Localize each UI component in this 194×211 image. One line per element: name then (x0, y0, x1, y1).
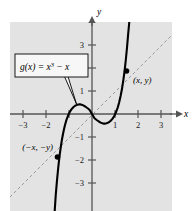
callout-equals: = (35, 62, 46, 72)
y-tick-label-3: 3 (80, 40, 84, 50)
cubic-function-graph: −3 −2 1 2 3 3 1 −1 −2 −3 x y (x, y) (−x,… (0, 0, 194, 211)
x-tick-label-3: 3 (159, 120, 163, 130)
y-tick-label-neg3: −3 (75, 178, 84, 188)
x-tick-label-2: 2 (136, 120, 140, 130)
point-marker-xy (124, 68, 130, 74)
x-tick-label-neg3: −3 (18, 120, 27, 130)
left-margin-mask (0, 0, 10, 211)
y-tick-label-1: 1 (80, 86, 84, 96)
callout-minus-term: − x (54, 62, 70, 72)
x-tick-label-neg2: −2 (41, 120, 50, 130)
y-axis-label-overlay: y (96, 7, 102, 17)
x-tick-label-1: 1 (113, 120, 117, 130)
x-axis-label-overlay: x (183, 109, 189, 119)
callout-function-name: g(x) (20, 62, 35, 73)
point-marker-neg-xy (55, 154, 61, 160)
right-margin-mask (172, 0, 194, 211)
point-label-neg-xy: (−x, −y) (22, 142, 53, 152)
figure-container: −3 −2 1 2 3 3 1 −1 −2 −3 x y (x, y) (−x,… (0, 0, 194, 211)
y-tick-label-neg2: −2 (75, 155, 84, 165)
callout-equation: g(x) = x3 − x (20, 61, 70, 74)
y-tick-label-neg1: −1 (75, 132, 84, 142)
point-label-xy: (x, y) (133, 75, 151, 85)
